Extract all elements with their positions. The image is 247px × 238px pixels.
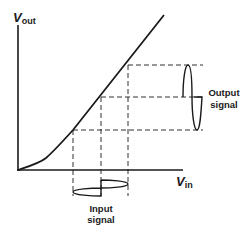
- x-axis-label: Vin: [176, 174, 193, 190]
- y-axis-label: Vout: [13, 10, 36, 26]
- vertical-projection-lines: [73, 65, 128, 196]
- transfer-characteristic-diagram: Vout Vin Output signal Input signal: [0, 0, 247, 238]
- input-signal-waveform: [73, 180, 128, 196]
- transfer-curve: [18, 15, 164, 170]
- output-signal-label-line1: Output: [208, 87, 240, 98]
- output-signal-waveform: [183, 65, 202, 130]
- input-signal-label-line1: Input: [89, 203, 113, 214]
- horizontal-projection-lines: [73, 65, 203, 130]
- output-signal-label-line2: signal: [210, 99, 237, 110]
- input-signal-label-line2: signal: [87, 214, 114, 225]
